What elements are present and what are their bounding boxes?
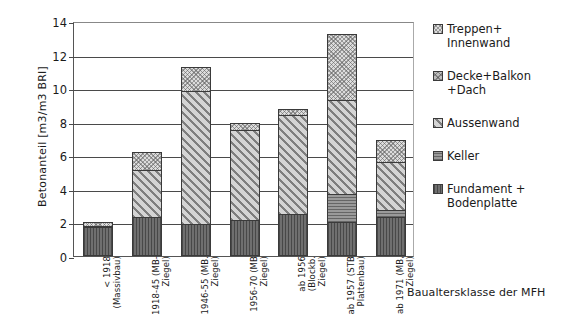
plot-area: 02468101214 (73, 22, 414, 257)
chart-legend: Treppen+ InnenwandDecke+Balkon +DachAuss… (433, 22, 565, 229)
y-axis-tick-label: 4 (60, 184, 67, 198)
y-axis-tick-label: 6 (60, 150, 67, 164)
bar-segment[interactable] (376, 217, 406, 256)
y-axis-tick-label: 12 (52, 50, 67, 64)
bar-group[interactable] (83, 222, 113, 256)
bar-group[interactable] (181, 67, 211, 256)
y-axis-tick-label: 0 (60, 251, 67, 265)
bar-segment[interactable] (327, 34, 357, 99)
legend-item[interactable]: Fundament + Bodenplatte (433, 182, 565, 210)
bar-group[interactable] (230, 123, 260, 256)
bar-segment[interactable] (278, 214, 308, 256)
bar-segment[interactable] (230, 123, 260, 130)
bar-segment[interactable] (278, 115, 308, 214)
legend-item-label: Fundament + Bodenplatte (447, 182, 525, 210)
bar-group[interactable] (327, 34, 357, 256)
legend-item[interactable]: Aussenwand (433, 116, 565, 130)
legend-swatch-icon (433, 151, 443, 161)
bar-segment[interactable] (376, 210, 406, 218)
bar-segment[interactable] (327, 222, 357, 256)
bar-group[interactable] (278, 109, 308, 256)
x-axis-tick-labels: < 1918 (Massivbau)1918-45 (MB- Ziegel)19… (73, 258, 414, 330)
bar-segment[interactable] (230, 220, 260, 256)
bar-group[interactable] (376, 140, 406, 256)
bar-segment[interactable] (230, 130, 260, 220)
legend-item-label: Aussenwand (447, 116, 520, 130)
bar-group[interactable] (132, 152, 162, 256)
y-axis-title: Betonanteil [m3/m3 BRI] (36, 17, 49, 257)
legend-item[interactable]: Decke+Balkon +Dach (433, 69, 565, 97)
bar-series-container (74, 23, 413, 256)
legend-item[interactable]: Treppen+ Innenwand (433, 22, 565, 50)
y-axis-tick-label: 10 (52, 83, 67, 97)
x-axis-tick-label: 1956-70 (MB Ziegel) (249, 256, 279, 328)
legend-swatch-icon (433, 118, 443, 128)
bar-segment[interactable] (376, 162, 406, 210)
bar-segment[interactable] (376, 140, 406, 162)
bar-segment[interactable] (132, 152, 162, 170)
bar-segment[interactable] (83, 227, 113, 256)
chart-figure: Betonanteil [m3/m3 BRI] 02468101214 < 19… (0, 0, 565, 333)
bar-segment[interactable] (132, 170, 162, 216)
bar-segment[interactable] (132, 217, 162, 256)
legend-item-label: Treppen+ Innenwand (447, 22, 510, 50)
x-axis-tick-label: 1918-45 (MB- Ziegel) (151, 256, 181, 328)
bar-segment[interactable] (181, 91, 211, 224)
legend-swatch-icon (433, 184, 443, 194)
y-axis-tick-label: 8 (60, 117, 67, 131)
y-axis-tick-label: 2 (60, 217, 67, 231)
legend-item-label: Decke+Balkon +Dach (447, 69, 531, 97)
x-axis-tick-label: ab 1957 (STB Plattenbau) (346, 256, 376, 328)
x-axis-tick-label: < 1918 (Massivbau) (102, 256, 132, 328)
x-axis-tick-label: ab 1956 (Blockb. Ziegel) (297, 256, 327, 328)
legend-swatch-icon (433, 71, 443, 81)
legend-item-label: Keller (447, 149, 479, 163)
bar-segment[interactable] (327, 194, 357, 223)
bar-segment[interactable] (181, 224, 211, 256)
y-axis-tick-label: 14 (52, 16, 67, 30)
x-axis-tick-label: 1946-55 (MB. Ziegel) (200, 256, 230, 328)
bar-segment[interactable] (181, 67, 211, 91)
x-axis-title: Baualtersklasse der MFH (407, 286, 545, 299)
legend-item[interactable]: Keller (433, 149, 565, 163)
legend-swatch-icon (433, 24, 443, 34)
bar-segment[interactable] (327, 100, 357, 194)
